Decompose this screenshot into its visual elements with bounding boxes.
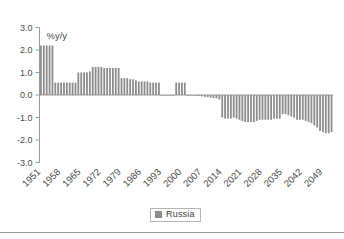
bar [184,83,186,95]
y-axis-tick-label: 3.0 [20,23,33,33]
bar [247,95,249,122]
x-axis-tick-label: 2028 [241,166,264,189]
bar [296,95,298,120]
bar [224,95,226,119]
bar [331,95,333,132]
bar [244,95,246,122]
y-axis-tick-label: -2.0 [17,135,33,145]
y-axis-tick-label: -1.0 [17,113,33,123]
bar [250,95,252,122]
bar [313,95,315,125]
bar [49,46,51,96]
bar [69,83,71,95]
bar [46,46,48,96]
x-axis-tick-label: 1951 [20,166,43,189]
legend-label-russia: Russia [166,210,195,219]
x-axis-tick-label: 2035 [261,166,284,189]
bar [216,95,218,98]
bar [121,78,123,95]
bar [95,67,97,95]
bar [178,83,180,95]
x-axis-tick-label: 1972 [80,166,103,189]
y-axis-tick-label: 0.0 [20,90,33,100]
bar [66,83,68,95]
bar [299,95,301,120]
bar [138,82,140,96]
bar [100,67,102,95]
x-axis-tick-label: 2007 [181,166,204,189]
bar [164,95,166,96]
y-axis-unit-label: %y/y [47,30,68,41]
bar [264,95,266,120]
bar [63,83,65,95]
bar [80,73,82,96]
bar [218,95,220,100]
chart-legend: Russia [150,208,201,222]
bar [195,95,197,96]
bar [230,95,232,119]
bar [144,82,146,96]
bar [92,67,94,95]
bar [129,79,131,95]
bar [325,95,327,133]
bar [253,95,255,122]
bar [210,95,212,98]
bar [201,95,203,96]
bar [241,95,243,121]
bar [221,95,223,118]
bar [57,83,59,95]
bar [54,83,56,95]
bar [43,46,45,96]
bar [103,68,105,95]
y-axis-tick-label: -3.0 [17,158,33,168]
bar [279,95,281,119]
x-axis-tick-label: 2049 [302,166,325,189]
bar [270,95,272,120]
bar [75,83,77,95]
bar [198,95,200,96]
bar [147,82,149,96]
bar [167,95,169,96]
y-axis-tick-label: 2.0 [20,45,33,55]
bar [187,95,189,96]
bar [158,83,160,95]
bar [86,73,88,96]
x-axis-tick-label: 1993 [140,166,163,189]
bar [276,95,278,119]
bar [141,82,143,96]
bar [273,95,275,119]
y-axis-tick-label: 1.0 [20,68,33,78]
bar [233,95,235,118]
bar [83,73,85,96]
x-axis-tick-label: 1979 [100,166,123,189]
bar [98,67,100,95]
bar [106,68,108,95]
bar [89,71,91,95]
x-axis-tick-label: 2021 [221,166,244,189]
bar [60,83,62,95]
bar [256,95,258,121]
bar [175,83,177,95]
bar [305,95,307,121]
bar [135,80,137,95]
bar [290,95,292,116]
bar [40,46,42,96]
bar [123,78,125,95]
x-axis-tick-label: 1965 [60,166,83,189]
bar [262,95,264,120]
bar [152,83,154,95]
bar [126,78,128,95]
bar [213,95,215,98]
bar [72,83,74,95]
bar [193,95,195,96]
footer-divider [0,232,344,233]
bar-series-russia [40,46,332,134]
bar [132,79,134,95]
bar [77,73,79,96]
bar [302,95,304,120]
bar [293,95,295,118]
bar [308,95,310,122]
bar [319,95,321,131]
bar [259,95,261,120]
bar [181,83,183,95]
